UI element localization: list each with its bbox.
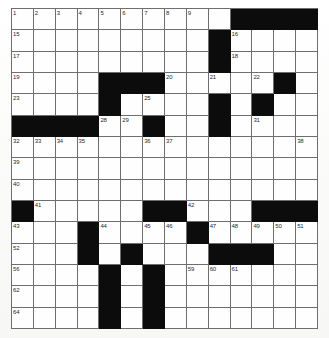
- grid-cell[interactable]: [121, 137, 143, 158]
- grid-cell[interactable]: [34, 180, 56, 201]
- grid-cell[interactable]: 44: [99, 222, 121, 243]
- grid-cell[interactable]: [78, 201, 100, 222]
- grid-cell[interactable]: [187, 30, 209, 51]
- grid-cell[interactable]: [56, 286, 78, 307]
- grid-cell[interactable]: [165, 30, 187, 51]
- grid-cell[interactable]: [56, 158, 78, 179]
- grid-cell[interactable]: [274, 116, 296, 137]
- grid-cell[interactable]: 29: [121, 116, 143, 137]
- grid-cell[interactable]: [296, 308, 318, 329]
- grid-cell[interactable]: [34, 222, 56, 243]
- grid-cell[interactable]: 39: [12, 158, 34, 179]
- grid-cell[interactable]: [165, 94, 187, 115]
- grid-cell[interactable]: [34, 286, 56, 307]
- grid-cell[interactable]: [296, 244, 318, 265]
- grid-cell[interactable]: [99, 137, 121, 158]
- grid-cell[interactable]: [209, 180, 231, 201]
- grid-cell[interactable]: [209, 137, 231, 158]
- grid-cell[interactable]: 59: [187, 265, 209, 286]
- grid-cell[interactable]: 2: [34, 9, 56, 30]
- grid-cell[interactable]: [296, 180, 318, 201]
- grid-cell[interactable]: [143, 30, 165, 51]
- grid-cell[interactable]: [165, 265, 187, 286]
- grid-cell[interactable]: [209, 9, 231, 30]
- grid-cell[interactable]: [143, 180, 165, 201]
- grid-cell[interactable]: [274, 180, 296, 201]
- grid-cell[interactable]: [78, 52, 100, 73]
- grid-cell[interactable]: [121, 286, 143, 307]
- grid-cell[interactable]: [121, 180, 143, 201]
- grid-cell[interactable]: [252, 308, 274, 329]
- grid-cell[interactable]: [187, 73, 209, 94]
- grid-cell[interactable]: [231, 201, 253, 222]
- grid-cell[interactable]: 31: [252, 116, 274, 137]
- grid-cell[interactable]: [165, 286, 187, 307]
- grid-cell[interactable]: [78, 73, 100, 94]
- grid-cell[interactable]: [187, 52, 209, 73]
- grid-cell[interactable]: [78, 158, 100, 179]
- grid-cell[interactable]: [231, 116, 253, 137]
- grid-cell[interactable]: [296, 94, 318, 115]
- grid-cell[interactable]: [99, 180, 121, 201]
- grid-cell[interactable]: 36: [143, 137, 165, 158]
- grid-cell[interactable]: [34, 30, 56, 51]
- grid-cell[interactable]: [121, 201, 143, 222]
- grid-cell[interactable]: [187, 308, 209, 329]
- grid-cell[interactable]: [56, 94, 78, 115]
- grid-cell[interactable]: [34, 52, 56, 73]
- grid-cell[interactable]: 19: [12, 73, 34, 94]
- grid-cell[interactable]: [99, 52, 121, 73]
- grid-cell[interactable]: [56, 308, 78, 329]
- grid-cell[interactable]: [209, 308, 231, 329]
- grid-cell[interactable]: [231, 137, 253, 158]
- grid-cell[interactable]: [274, 52, 296, 73]
- grid-cell[interactable]: [296, 73, 318, 94]
- grid-cell[interactable]: 61: [231, 265, 253, 286]
- grid-cell[interactable]: 47: [209, 222, 231, 243]
- grid-cell[interactable]: [296, 286, 318, 307]
- grid-cell[interactable]: [274, 158, 296, 179]
- grid-cell[interactable]: 51: [296, 222, 318, 243]
- grid-cell[interactable]: [296, 52, 318, 73]
- grid-cell[interactable]: [274, 94, 296, 115]
- grid-cell[interactable]: 21: [209, 73, 231, 94]
- grid-cell[interactable]: 45: [143, 222, 165, 243]
- grid-cell[interactable]: [78, 30, 100, 51]
- grid-cell[interactable]: [274, 137, 296, 158]
- grid-cell[interactable]: [99, 201, 121, 222]
- grid-cell[interactable]: [252, 30, 274, 51]
- grid-cell[interactable]: [296, 158, 318, 179]
- grid-cell[interactable]: [121, 94, 143, 115]
- crossword-grid[interactable]: 1234567891516171819202122232528293132333…: [11, 8, 318, 329]
- grid-cell[interactable]: [56, 73, 78, 94]
- grid-cell[interactable]: 35: [78, 137, 100, 158]
- grid-cell[interactable]: [78, 308, 100, 329]
- grid-cell[interactable]: [296, 116, 318, 137]
- grid-cell[interactable]: [209, 158, 231, 179]
- grid-cell[interactable]: 43: [12, 222, 34, 243]
- grid-cell[interactable]: [121, 308, 143, 329]
- grid-cell[interactable]: 18: [231, 52, 253, 73]
- grid-cell[interactable]: [187, 244, 209, 265]
- grid-cell[interactable]: [231, 94, 253, 115]
- grid-cell[interactable]: [143, 244, 165, 265]
- grid-cell[interactable]: [252, 137, 274, 158]
- grid-cell[interactable]: [187, 94, 209, 115]
- grid-cell[interactable]: 64: [12, 308, 34, 329]
- grid-cell[interactable]: [274, 286, 296, 307]
- grid-cell[interactable]: 42: [187, 201, 209, 222]
- grid-cell[interactable]: 40: [12, 180, 34, 201]
- grid-cell[interactable]: 25: [143, 94, 165, 115]
- grid-cell[interactable]: [187, 116, 209, 137]
- grid-cell[interactable]: 8: [165, 9, 187, 30]
- grid-cell[interactable]: [34, 94, 56, 115]
- grid-cell[interactable]: [121, 30, 143, 51]
- grid-cell[interactable]: 20: [165, 73, 187, 94]
- grid-cell[interactable]: 23: [12, 94, 34, 115]
- grid-cell[interactable]: [78, 180, 100, 201]
- grid-cell[interactable]: [34, 265, 56, 286]
- grid-cell[interactable]: 41: [34, 201, 56, 222]
- grid-cell[interactable]: [34, 308, 56, 329]
- grid-cell[interactable]: [56, 30, 78, 51]
- grid-cell[interactable]: 9: [187, 9, 209, 30]
